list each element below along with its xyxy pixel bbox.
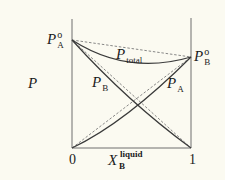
pa-label: PA [167,76,184,94]
p-total-label: Ptotal [116,47,142,65]
x-axis-label-sub: B [119,162,125,171]
pa-pure-sub: A [57,41,64,50]
x-axis-label-sup: liquid [120,150,143,159]
pb-pure-scripts: oB [203,49,213,64]
pa-sub: A [177,84,184,94]
pb-pure-sub: B [204,58,210,67]
x-axis-label: X liquid B [108,153,117,168]
p-total-base: P [116,46,125,62]
x-axis-label-base: X [108,152,117,168]
y-axis-label: P [28,76,37,91]
pb-pure-sup: o [204,47,209,57]
pa-pure-label: PoA [47,32,66,47]
pb-sub: B [102,83,108,93]
pb-label: PB [92,75,108,93]
pa-pure-scripts: oA [56,32,66,47]
pb-base: P [92,74,101,90]
pa-base: P [167,75,176,91]
x-tick-0: 0 [69,153,76,167]
pb-pure-base: P [194,48,203,64]
pa-pure-sup: o [57,30,62,40]
pa-pure-base: P [47,31,56,47]
y-axis-label-text: P [28,75,37,91]
pb-pure-label: PoB [194,49,213,64]
p-total-sub: total [126,55,142,65]
x-tick-1: 1 [189,153,196,167]
